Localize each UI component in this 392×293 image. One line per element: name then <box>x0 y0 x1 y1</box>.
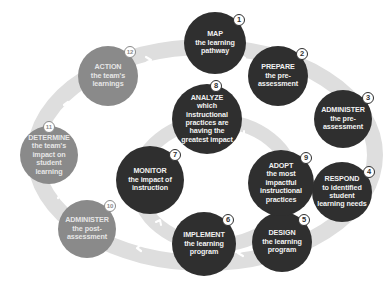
step-5-design-learning-program: DESIGNthe learning program 5 <box>252 212 312 272</box>
step-1-map-learning-pathway: MAPthe learning pathway 1 <box>184 12 246 74</box>
learning-cycle-diagram: MAPthe learning pathway 1 PREPAREthe pre… <box>0 0 392 293</box>
step-number-badge: 5 <box>298 214 310 226</box>
step-description: the learning pathway <box>188 39 242 56</box>
step-12-action-team-learnings: ACTIONthe team's learnings 12 <box>78 46 138 106</box>
step-9-adopt-practices: ADOPTthe most impactful instructional pr… <box>248 150 314 216</box>
step-number-badge: 12 <box>124 46 136 58</box>
step-number-badge: 10 <box>104 200 116 212</box>
step-2-prepare-pre-assessment: PREPAREthe pre-assessment 2 <box>248 46 308 106</box>
step-number-badge: 11 <box>43 121 55 133</box>
step-8-analyze-practices: ANALYZEwhich instructional practices are… <box>172 84 242 154</box>
step-number-badge: 1 <box>233 14 245 26</box>
step-number-badge: 3 <box>362 92 374 104</box>
step-description: the team's learnings <box>82 72 134 89</box>
step-number-badge: 7 <box>169 149 181 161</box>
step-10-administer-post-assessment: ADMINISTERthe post-assessment 10 <box>58 200 116 258</box>
step-11-determine-team-impact: DETERMINEthe team's impact on student le… <box>20 126 78 184</box>
step-3-administer-pre-assessment: ADMINISTERthe pre-assessment 3 <box>314 90 372 148</box>
step-number-badge: 4 <box>363 166 375 178</box>
arrow-icon <box>353 153 359 157</box>
step-description: the learning program <box>176 240 232 257</box>
arrow-icon <box>315 218 320 224</box>
step-number-badge: 8 <box>210 80 222 92</box>
arrow-icon <box>316 86 321 92</box>
step-6-implement-learning-program: IMPLEMENTthe learning program 6 <box>172 212 236 276</box>
step-description: the most impactful instructional practic… <box>252 170 310 204</box>
step-number-badge: 2 <box>296 48 308 60</box>
step-4-respond-student-needs: RESPONDto identified student learning ne… <box>312 162 372 222</box>
arrow-icon <box>241 223 245 228</box>
step-7-monitor-impact: MONITORthe impact of instruction 7 <box>116 146 184 214</box>
step-description: the impact of instruction <box>120 176 180 193</box>
step-description: the post-assessment <box>62 225 112 242</box>
arrow-icon <box>58 194 65 198</box>
arrow-icon <box>150 129 155 133</box>
step-description: to identified student learning needs <box>316 184 368 209</box>
step-description: the team's impact on student learning <box>24 142 74 176</box>
step-description: the learning program <box>256 238 308 255</box>
step-description: the pre-assessment <box>252 72 304 89</box>
step-description: which instructional practices are having… <box>176 102 238 144</box>
step-number-badge: 6 <box>222 214 234 226</box>
step-number-badge: 9 <box>300 152 312 164</box>
step-description: the pre-assessment <box>318 115 368 132</box>
